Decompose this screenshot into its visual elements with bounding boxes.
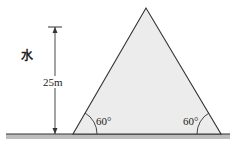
- arrow-up-icon: [53, 27, 58, 33]
- water-label: 水: [21, 48, 34, 63]
- angle-right-label: 60°: [183, 115, 198, 127]
- arrow-down-icon: [53, 128, 58, 134]
- angle-left-label: 60°: [96, 115, 111, 127]
- ground-band: [6, 134, 230, 139]
- dam-diagram: 水 25m 60° 60°: [0, 0, 233, 150]
- height-label: 25m: [43, 76, 63, 88]
